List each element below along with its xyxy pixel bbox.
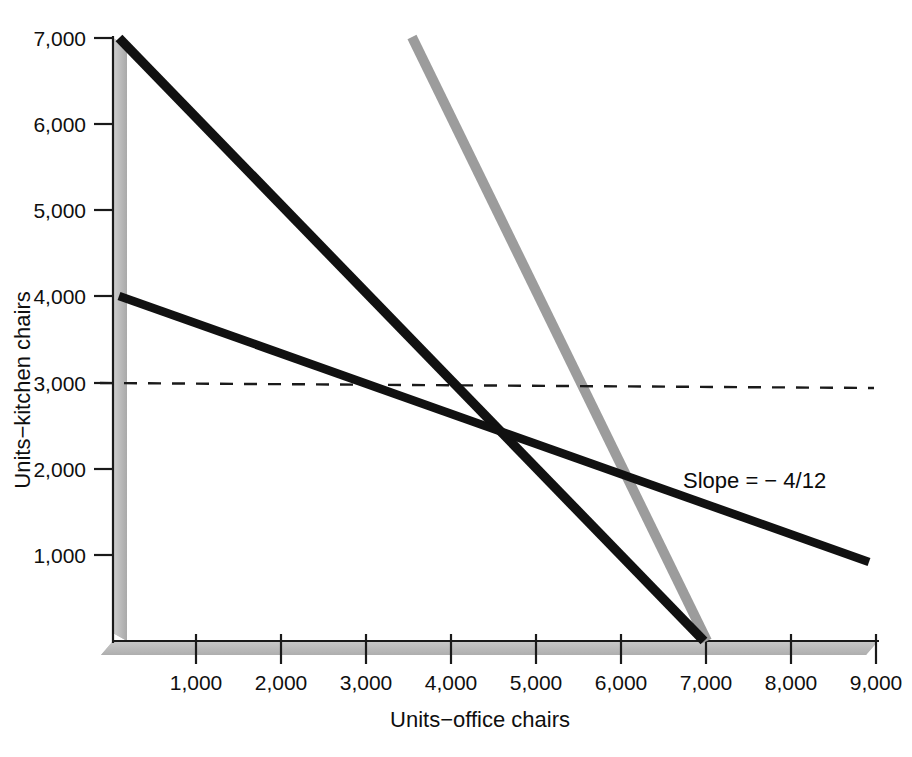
y-tick-label-5000: 5,000 [33,199,86,222]
slope-annotation-label: Slope = − 4/12 [683,468,826,493]
y-tick-label-3000: 3,000 [33,372,86,395]
x-axis-title: Units−office chairs [390,707,570,732]
y-tick-label-2000: 2,000 [33,458,86,481]
x-tick-label-9000: 9,000 [850,671,903,694]
x-tick-label-6000: 6,000 [595,671,648,694]
y-tick-label-7000: 7,000 [33,27,86,50]
y-tick-label-1000: 1,000 [33,544,86,567]
chart-container: 7,000 6,000 5,000 4,000 3,000 2,000 1,00… [0,0,912,757]
series-line-steepest-gray [412,37,707,641]
x-tick-label-8000: 8,000 [765,671,818,694]
y-tick-label-6000: 6,000 [33,113,86,136]
series-line-steep-black [119,38,704,641]
y-axis-title: Units−kitchen chairs [10,291,35,488]
x-tick-label-4000: 4,000 [425,671,478,694]
x-tick-label-3000: 3,000 [340,671,393,694]
x-axis-shadow-gradient [101,641,878,655]
x-tick-label-5000: 5,000 [510,671,563,694]
x-tick-label-1000: 1,000 [170,671,223,694]
chart-canvas: 7,000 6,000 5,000 4,000 3,000 2,000 1,00… [0,0,912,757]
series-line-reference-dashed [100,383,874,388]
x-tick-label-7000: 7,000 [680,671,733,694]
y-axis-ticks [94,38,113,555]
series-line-shallow-black [119,296,869,562]
y-axis-shadow-gradient [113,38,127,641]
y-tick-label-4000: 4,000 [33,285,86,308]
x-tick-label-2000: 2,000 [255,671,308,694]
